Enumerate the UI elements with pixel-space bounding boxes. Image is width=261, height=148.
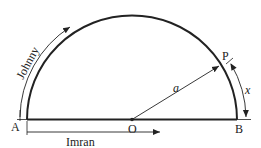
label-A: A <box>11 120 20 134</box>
label-P: P <box>222 49 229 63</box>
label-arc-x: x <box>244 83 251 97</box>
label-imran: Imran <box>66 135 95 148</box>
label-B: B <box>235 122 243 136</box>
semicircle-arc <box>27 16 237 120</box>
label-O: O <box>128 122 137 136</box>
center-point-O <box>130 118 134 122</box>
label-radius-a: a <box>173 81 179 95</box>
semicircle-diagram: A O B P a x Imran Johnny <box>0 0 261 148</box>
